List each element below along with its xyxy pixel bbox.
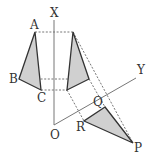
axes (54, 20, 136, 125)
triangle-projection (67, 32, 89, 90)
label-point-b: B (9, 72, 18, 86)
label-origin: O (50, 128, 60, 142)
label-point-a: A (29, 18, 39, 32)
label-point-c: C (37, 91, 46, 105)
triangle-abc (19, 32, 41, 90)
diagram-svg: X Y O A B C P Q R (0, 0, 154, 155)
label-point-q: Q (93, 95, 103, 109)
label-x-axis: X (50, 6, 59, 20)
projection-diagram: X Y O A B C P Q R (0, 0, 154, 155)
label-point-p: P (134, 141, 142, 155)
label-point-r: R (76, 120, 86, 134)
label-y-axis: Y (136, 63, 146, 77)
triangle-pqr (84, 107, 133, 143)
